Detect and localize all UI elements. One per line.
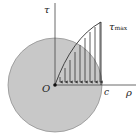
tau-axis-label: τ [44,5,50,15]
origin-label: O [42,84,50,94]
stress-diagram [0,0,140,140]
origin-dot [53,83,57,87]
rho-axis-label: ρ [126,88,132,98]
radius-label: c [104,88,109,97]
tau-max-label: τmax [109,22,127,32]
tau-max-subscript: max [115,24,128,31]
